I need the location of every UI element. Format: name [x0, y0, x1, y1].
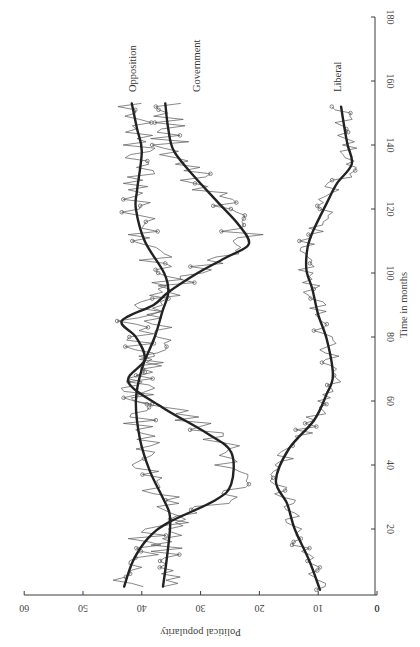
popularity-axis-label: Political popularity: [159, 627, 241, 638]
time-axis-label: Time in months: [398, 272, 409, 338]
popularity-tick-label: 10: [313, 603, 323, 614]
time-tick-label: 120: [385, 202, 396, 217]
popularity-tick-label: 40: [137, 603, 147, 614]
smoothed-line-government: [121, 103, 249, 586]
time-tick-label: 40: [385, 460, 396, 470]
popularity-chart: 0102030405060Political popularity0204060…: [0, 0, 420, 647]
series-label-government: Government: [191, 39, 202, 92]
popularity-tick-label: 50: [78, 603, 88, 614]
time-tick-label: 20: [385, 524, 396, 534]
time-tick-label: 160: [385, 74, 396, 89]
raw-loop-marker: [330, 105, 334, 109]
series-label-opposition: Opposition: [127, 45, 138, 92]
popularity-tick-label: 20: [254, 603, 264, 614]
smoothed-series-lines: [121, 103, 352, 589]
raw-line-liberal: [270, 107, 357, 590]
popularity-tick-label: 30: [196, 603, 206, 614]
time-tick-label: 140: [385, 138, 396, 153]
popularity-tick-label: 60: [19, 603, 29, 614]
time-tick-label: 80: [385, 332, 396, 342]
time-tick-label: 100: [385, 266, 396, 281]
time-tick-label: 60: [385, 396, 396, 406]
chart-axes: 0102030405060Political popularity0204060…: [19, 10, 409, 639]
series-label-liberal: Liberal: [332, 62, 343, 92]
chart-labels: OppositionGovernmentLiberal: [127, 39, 343, 92]
time-tick-label: 180: [385, 10, 396, 25]
smoothed-line-liberal: [276, 107, 352, 590]
time-tick-label: 0: [375, 603, 380, 614]
raw-loop-marker: [315, 588, 319, 592]
